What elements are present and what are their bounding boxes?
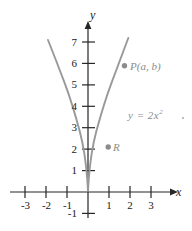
- y-tick-label-4: 4: [64, 101, 77, 112]
- y-tick-label-7: 7: [64, 37, 77, 48]
- curve-equation-label: y = 2x2: [128, 109, 163, 121]
- x-axis: [10, 189, 178, 196]
- figure-parabola-plot: x y 7 6 5 4 3 2 1 -1 -3 -2 -1 1 2 3 P(a,…: [0, 0, 192, 231]
- equation-exponent: 2: [159, 108, 163, 116]
- equation-equals: =: [137, 109, 145, 121]
- y-tick-label-3: 3: [64, 122, 77, 133]
- y-tick-label-1: 1: [64, 165, 77, 176]
- x-axis-label: x: [176, 186, 181, 198]
- y-axis-label: y: [90, 9, 95, 21]
- y-tick-label-6: 6: [64, 58, 77, 69]
- x-tick-label-2: 2: [124, 200, 136, 211]
- x-tick-label-3: 3: [145, 200, 157, 211]
- point-p-marker: [122, 63, 127, 68]
- y-tick-label-5: 5: [64, 79, 77, 90]
- equation-rhs: 2x: [148, 109, 159, 121]
- x-tick-label-neg1: -1: [58, 200, 77, 211]
- x-tick-label-1: 1: [103, 200, 115, 211]
- x-tick-label-neg2: -2: [37, 200, 56, 211]
- y-tick-label-2: 2: [64, 144, 77, 155]
- point-r-marker: [106, 144, 111, 149]
- point-p-label: P(a, b): [130, 61, 161, 72]
- stray-mark: [182, 117, 184, 119]
- x-tick-label-neg3: -3: [16, 200, 35, 211]
- point-r-label: R: [113, 142, 120, 153]
